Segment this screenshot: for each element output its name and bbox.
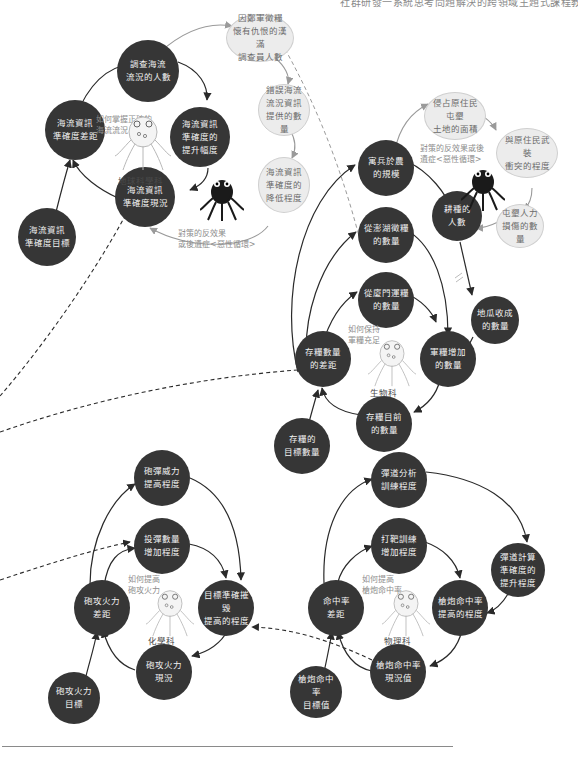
subject-earth-science: 地球科學科 bbox=[118, 174, 163, 186]
node-fire-now: 砲攻火力 現況 bbox=[136, 644, 192, 700]
node-grain-increase: 軍糧增加 的數量 bbox=[420, 331, 476, 387]
footer-divider bbox=[2, 746, 453, 747]
node-occupy-land: 侵占原住民屯墾 土地的面積 bbox=[424, 92, 486, 140]
node-hit-now: 槍炮命中率 現況值 bbox=[370, 644, 426, 700]
node-shell-count: 投彈數量 增加程度 bbox=[134, 518, 190, 574]
node-ballistics-training: 彈道分析 訓練程度 bbox=[371, 452, 427, 508]
node-grain-goal: 存糧的 目標數量 bbox=[274, 418, 330, 474]
node-hit-gap: 命中率 差距 bbox=[308, 580, 364, 636]
node-hostile-surveyors: 因鄭軍徵糧 懷有仇恨的漢滿 調查員人數 bbox=[226, 14, 294, 62]
node-harvest: 地瓜收成 的數量 bbox=[471, 296, 519, 344]
node-survey-people: 調查海流 流況的人數 bbox=[117, 40, 179, 102]
octopus-light-icon bbox=[368, 338, 416, 388]
node-grain-gap: 存糧數量 的差距 bbox=[295, 331, 351, 387]
octopus-light-icon bbox=[382, 588, 430, 638]
octopus-dark-icon bbox=[200, 178, 244, 222]
node-hit-increase: 槍炮命中率 提高的程度 bbox=[432, 580, 488, 636]
node-hit-goal: 槍炮命中率 目標值 bbox=[290, 666, 342, 718]
side-effect-note-biology: 對策的反效果或後 遺症<惡性循環> bbox=[420, 143, 484, 165]
node-fire-gap: 砲攻火力 差距 bbox=[74, 580, 130, 636]
node-shell-power: 砲彈威力 提高程度 bbox=[134, 450, 190, 506]
octopus-light-icon bbox=[115, 114, 171, 172]
node-accuracy-goal: 海流資訊 準確度目標 bbox=[18, 208, 76, 266]
node-wrong-info: 錯誤海流 流況資訊 提供的數量 bbox=[258, 84, 310, 136]
node-ballistics-calc: 彈道計算 準確度的 提升程度 bbox=[491, 543, 545, 597]
node-fire-goal: 砲攻火力 目標 bbox=[48, 672, 100, 724]
node-farm-scale: 寓兵於農 的規模 bbox=[358, 140, 414, 196]
node-target-practice: 打靶訓練 增加程度 bbox=[371, 518, 427, 574]
node-grain-now: 存糧目前 的數量 bbox=[356, 396, 412, 452]
octopus-dark-icon bbox=[461, 168, 505, 212]
octopus-light-icon bbox=[146, 588, 194, 638]
node-accuracy-drop: 海流資訊 準確度的 降低程度 bbox=[258, 157, 310, 213]
node-rice-from-lake: 從澎湖徵糧 的數量 bbox=[358, 207, 414, 263]
node-accuracy-gain: 海流資訊 準確度的 提升幅度 bbox=[170, 107, 230, 167]
node-target-accuracy: 目標準確摧毀 提高的程度 bbox=[198, 580, 254, 636]
side-effect-note-earth: 對策的反效果 或後遺症<惡性循環> bbox=[178, 228, 255, 250]
node-conflict: 與原住民武裝 衝突的程度 bbox=[496, 128, 558, 178]
node-rice-from-xiamen: 從廈門運糧 的數量 bbox=[358, 272, 414, 328]
